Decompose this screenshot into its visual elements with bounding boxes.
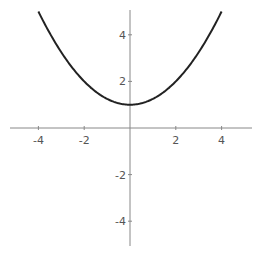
x-tick-label: -2 [79, 134, 90, 147]
plot-area: -4-22442-2-4 [0, 0, 259, 253]
axes [10, 10, 252, 246]
y-tick-label: 2 [119, 75, 126, 88]
y-tick-label: -4 [115, 215, 126, 228]
x-tick-label: 4 [218, 134, 225, 147]
x-tick-label: -4 [33, 134, 44, 147]
y-tick-label: -2 [115, 169, 126, 182]
x-tick-label: 2 [172, 134, 179, 147]
y-tick-label: 4 [119, 29, 126, 42]
